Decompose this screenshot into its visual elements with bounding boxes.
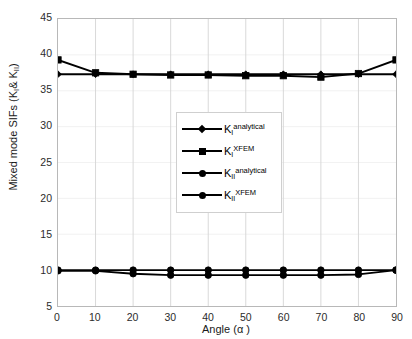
y-axis-label: Mixed mode SIFs (KI& KII) xyxy=(7,37,21,217)
x-axis-label: Angle (α ) xyxy=(0,323,412,335)
y-axis-label-text: Mixed mode SIFs (KI& KII) xyxy=(7,63,19,190)
x-tick-label: 80 xyxy=(344,312,374,323)
legend-item-3: KIIXFEM xyxy=(182,184,277,206)
chart-figure: 51015202530354045 0102030405060708090 Mi… xyxy=(0,0,412,339)
y-tick-label: 10 xyxy=(22,265,52,276)
x-axis-label-text: Angle (α ) xyxy=(202,323,250,335)
series-1 xyxy=(58,57,396,81)
x-tick-label: 0 xyxy=(42,312,72,323)
x-tick-label: 40 xyxy=(193,312,223,323)
y-tick-label: 25 xyxy=(22,157,52,168)
legend-marker-square-icon xyxy=(182,144,222,158)
legend-label-3: KIIXFEM xyxy=(222,189,256,202)
x-tick-label: 30 xyxy=(155,312,185,323)
x-tick-label: 90 xyxy=(382,312,412,323)
x-tick-label: 70 xyxy=(306,312,336,323)
legend-item-2: KIIanalytical xyxy=(182,162,277,184)
series-3 xyxy=(58,267,396,279)
legend-marker-diamond-icon xyxy=(182,122,222,136)
legend-item-0: KIanalytical xyxy=(182,118,277,140)
y-tick-label: 30 xyxy=(22,120,52,131)
x-tick-label: 10 xyxy=(80,312,110,323)
legend-label-1: KIXFEM xyxy=(222,145,254,158)
y-tick-label: 35 xyxy=(22,84,52,95)
x-tick-label: 60 xyxy=(269,312,299,323)
y-tick-label: 45 xyxy=(22,12,52,23)
legend-item-1: KIXFEM xyxy=(182,140,277,162)
x-tick-label: 50 xyxy=(231,312,261,323)
legend-marker-circle-icon xyxy=(182,188,222,202)
y-tick-label: 20 xyxy=(22,193,52,204)
legend-label-2: KIIanalytical xyxy=(222,167,267,180)
y-tick-label: 15 xyxy=(22,229,52,240)
chart-legend: KIanalyticalKIXFEMKIIanalyticalKIIXFEM xyxy=(176,112,282,213)
legend-marker-circle-icon xyxy=(182,166,222,180)
y-tick-label: 40 xyxy=(22,48,52,59)
y-tick-label: 5 xyxy=(22,301,52,312)
x-tick-label: 20 xyxy=(118,312,148,323)
legend-label-0: KIanalytical xyxy=(222,123,265,136)
